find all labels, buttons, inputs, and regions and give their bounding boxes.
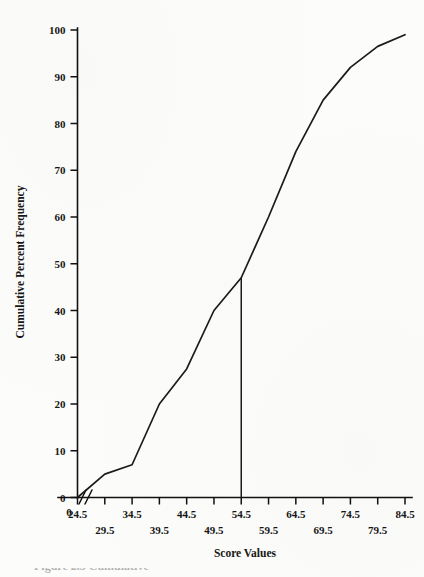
figure-root: 0102030405060708090100 24.529.534.539.54… <box>0 0 424 577</box>
x-axis-title: Score Values <box>214 547 277 559</box>
x-tick-label: 59.5 <box>259 524 279 536</box>
y-tick-label: 100 <box>49 24 66 36</box>
figure-caption-text: Figure 2.5 Cumulative <box>34 568 149 574</box>
y-tick-label: 80 <box>55 118 67 130</box>
figure-caption-clipped: Figure 2.5 Cumulative <box>0 568 424 577</box>
x-tick-label: 39.5 <box>150 524 170 536</box>
x-tick-label: 54.5 <box>232 508 252 520</box>
y-tick-label: 30 <box>55 351 67 363</box>
x-axis-ticks <box>78 498 406 505</box>
x-tick-label: 29.5 <box>95 524 115 536</box>
y-axis-ticks <box>71 30 78 498</box>
y-tick-label: 90 <box>55 71 67 83</box>
x-tick-label: 49.5 <box>204 524 224 536</box>
y-tick-label: 10 <box>55 445 67 457</box>
y-tick-label: 20 <box>55 398 67 410</box>
y-tick-label: 40 <box>55 305 67 317</box>
y-axis-group: 0102030405060708090100 <box>49 24 78 504</box>
x-tick-label: 79.5 <box>368 524 388 536</box>
x-tick-label: 34.5 <box>122 508 142 520</box>
x-origin-label: 0 <box>66 506 72 518</box>
x-tick-label: 69.5 <box>314 524 334 536</box>
x-tick-label: 74.5 <box>341 508 361 520</box>
y-tick-label: 50 <box>55 258 67 270</box>
y-tick-label: 70 <box>55 164 67 176</box>
y-axis-tick-labels: 0102030405060708090100 <box>49 24 66 504</box>
y-axis-title: Cumulative Percent Frequency <box>14 185 27 338</box>
x-axis-group: 24.529.534.539.544.549.554.559.564.569.5… <box>58 498 415 536</box>
cumulative-frequency-chart: 0102030405060708090100 24.529.534.539.54… <box>0 0 424 577</box>
x-tick-label: 84.5 <box>395 508 415 520</box>
y-tick-label: 60 <box>55 211 67 223</box>
x-tick-label: 64.5 <box>286 508 306 520</box>
x-axis-tick-labels: 24.529.534.539.544.549.554.559.564.569.5… <box>68 508 415 536</box>
x-tick-label: 44.5 <box>177 508 197 520</box>
